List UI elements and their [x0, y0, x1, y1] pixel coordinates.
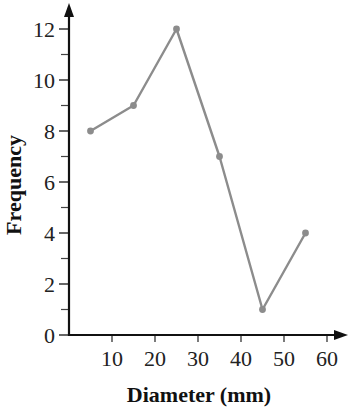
- data-point-marker: [216, 153, 223, 160]
- x-tick-label: 40: [230, 346, 252, 371]
- x-tick-label: 60: [316, 346, 338, 371]
- data-point-marker: [259, 306, 266, 313]
- frequency-polygon-chart: 024681012 102030405060 Diameter (mm) Fre…: [0, 0, 350, 418]
- y-axis-ticks: 024681012: [33, 17, 69, 348]
- y-tick-label: 12: [33, 17, 55, 42]
- x-tick-label: 50: [273, 346, 295, 371]
- x-tick-label: 20: [144, 346, 166, 371]
- x-tick-label: 10: [101, 346, 123, 371]
- data-point-marker: [173, 26, 180, 33]
- y-tick-label: 8: [44, 119, 55, 144]
- data-line: [91, 29, 306, 310]
- x-tick-label: 30: [187, 346, 209, 371]
- data-points: [87, 26, 309, 313]
- data-point-marker: [130, 102, 137, 109]
- y-tick-label: 10: [33, 68, 55, 93]
- x-axis-title: Diameter (mm): [127, 382, 271, 407]
- y-tick-label: 2: [44, 272, 55, 297]
- x-axis-arrow-icon: [334, 330, 348, 340]
- y-tick-label: 6: [44, 170, 55, 195]
- data-point-marker: [87, 128, 94, 135]
- x-axis-ticks: 102030405060: [101, 335, 338, 371]
- y-tick-label: 0: [44, 323, 55, 348]
- y-tick-label: 4: [44, 221, 55, 246]
- y-axis-title: Frequency: [1, 135, 26, 235]
- y-axis-arrow-icon: [64, 3, 74, 17]
- data-point-marker: [302, 230, 309, 237]
